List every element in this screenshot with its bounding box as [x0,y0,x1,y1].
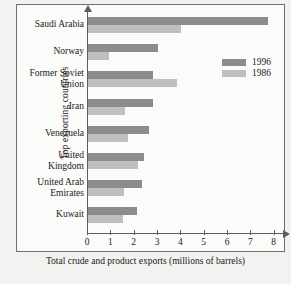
category-label: Saudi Arabia [0,19,84,30]
bar-1996 [88,99,153,107]
x-tick [87,230,88,235]
bar-1996 [88,207,137,215]
x-axis-title: Total crude and product exports (million… [0,256,291,266]
bar-1996 [88,71,153,79]
x-tick [157,230,158,235]
category-label: United ArabEmirates [0,177,84,198]
bar-1986 [88,107,125,115]
x-tick-label: 2 [124,237,144,247]
legend-item: 1996 [222,57,280,67]
bar-1996 [88,126,149,134]
legend-swatch [222,59,246,66]
bar-1986 [88,215,123,223]
x-tick-label: 5 [194,237,214,247]
x-tick [134,230,135,235]
bar-1996 [88,180,142,188]
y-axis-arrow-icon [84,5,92,12]
bar-1986 [88,25,181,33]
x-tick-label: 3 [147,237,167,247]
bar-1986 [88,161,138,169]
x-tick [180,230,181,235]
bar-1986 [88,134,128,142]
legend-label: 1996 [252,57,271,67]
bar-1986 [88,79,177,87]
x-axis-line [87,233,283,234]
category-label: UnitedKingdom [0,150,84,171]
x-tick-label: 8 [264,237,284,247]
bar-1996 [88,17,268,25]
category-label: Kuwait [0,209,84,220]
bar-rows: Saudi ArabiaNorwayFormer SovietUnionIran… [88,13,283,231]
x-tick [274,230,275,235]
x-tick-label: 1 [100,237,120,247]
bar-chart-figure: Top exporting countries Saudi ArabiaNorw… [0,0,291,284]
category-label: Norway [0,46,84,57]
chart-frame: Top exporting countries Saudi ArabiaNorw… [16,4,285,252]
bar-1996 [88,44,158,52]
x-tick [250,230,251,235]
bar-1986 [88,188,124,196]
x-tick-label: 0 [77,237,97,247]
legend-swatch [222,70,246,77]
x-axis-arrow-icon [283,230,290,238]
x-tick [204,230,205,235]
x-tick-label: 6 [217,237,237,247]
legend: 19961986 [222,57,280,79]
bar-1986 [88,52,109,60]
legend-item: 1986 [222,68,280,78]
x-tick-label: 4 [170,237,190,247]
x-tick [227,230,228,235]
plot-area: Saudi ArabiaNorwayFormer SovietUnionIran… [87,11,283,229]
category-label: Venezuela [0,128,84,139]
legend-label: 1986 [252,68,271,78]
x-tick [110,230,111,235]
figure-caption [0,274,291,283]
category-label: Iran [0,101,84,112]
bar-1996 [88,153,144,161]
category-label: Former SovietUnion [0,68,84,89]
x-tick-label: 7 [240,237,260,247]
